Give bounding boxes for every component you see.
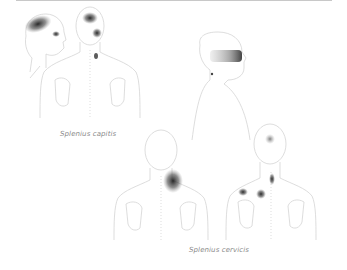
- trigger-point-illustration: [0, 0, 347, 270]
- figure-side-view-torso: [192, 32, 250, 140]
- caption-splenius-cervicis: Splenius cervicis: [189, 246, 249, 254]
- figure-back-view-cervicis-1: [114, 130, 208, 240]
- caption-splenius-capitis: Splenius capitis: [60, 130, 116, 138]
